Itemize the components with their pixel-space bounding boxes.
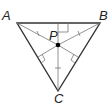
- label-b: B: [99, 8, 108, 23]
- label-a: A: [1, 8, 11, 23]
- right-angle-marker-ac: [41, 54, 45, 63]
- label-p: P: [49, 28, 58, 43]
- triangle-diagram: A B P C: [0, 0, 109, 105]
- right-angle-marker-ab: [58, 23, 68, 32]
- perpendicular-to-ac: [38, 45, 58, 57]
- label-c: C: [54, 91, 64, 105]
- right-angle-marker-bc: [71, 54, 75, 63]
- perpendicular-to-bc: [58, 45, 78, 57]
- point-p: [56, 43, 61, 48]
- triangle-abc: [17, 23, 100, 91]
